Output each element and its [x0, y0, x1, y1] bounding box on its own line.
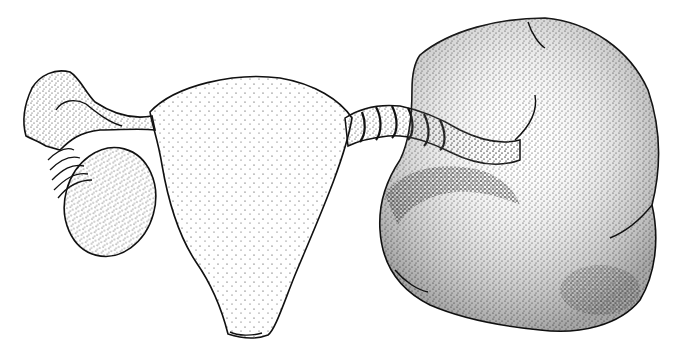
uterus	[150, 77, 352, 338]
enlarged-ovarian-mass	[380, 18, 659, 331]
left-ovary	[52, 137, 167, 267]
left-fallopian-tube	[24, 71, 155, 150]
torsion-illustration	[0, 0, 676, 356]
